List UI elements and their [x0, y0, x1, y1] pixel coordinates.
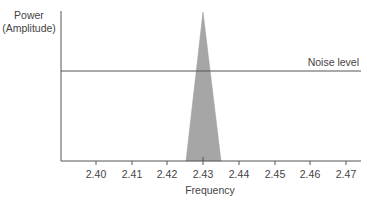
- signal-peak: [186, 12, 221, 161]
- x-tick-label: 2.46: [300, 168, 321, 180]
- x-tick-label: 2.44: [229, 168, 250, 180]
- noise-level-label: Noise level: [308, 56, 359, 68]
- x-tick-label: 2.41: [122, 168, 143, 180]
- x-tick-label: 2.42: [157, 168, 178, 180]
- x-tick-labels: 2.40 2.41 2.42 2.43 2.44 2.45 2.46 2.47: [86, 168, 357, 180]
- x-tick-label: 2.45: [265, 168, 286, 180]
- chart-canvas: Noise level 2.40 2.41 2.42 2.43 2.44 2.4…: [0, 0, 367, 206]
- x-tick-label: 2.47: [336, 168, 357, 180]
- x-tick-label: 2.40: [86, 168, 107, 180]
- x-axis-title: Frequency: [185, 184, 235, 196]
- x-tick-label: 2.43: [193, 168, 214, 180]
